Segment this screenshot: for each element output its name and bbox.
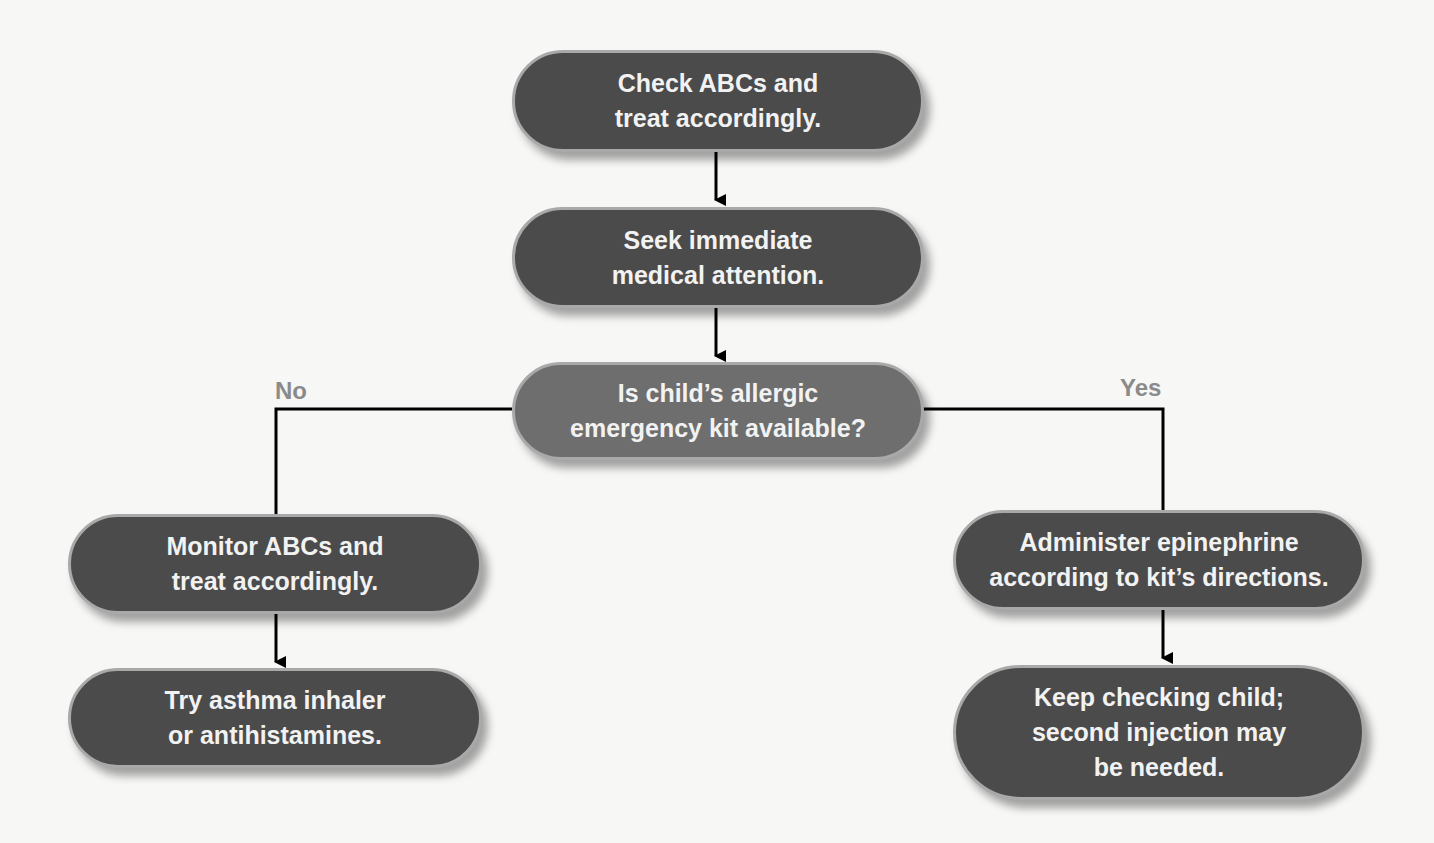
node-administer-epinephrine: Administer epinephrine according to kit’… (953, 510, 1365, 610)
node-seek-attention: Seek immediate medical attention. (512, 207, 924, 308)
node-administer-epinephrine-text: Administer epinephrine according to kit’… (989, 525, 1328, 595)
node-keep-checking-text: Keep checking child; second injection ma… (1032, 680, 1286, 785)
node-seek-attention-text: Seek immediate medical attention. (612, 223, 825, 293)
node-keep-checking: Keep checking child; second injection ma… (953, 665, 1365, 800)
branch-label-yes: Yes (1120, 374, 1161, 402)
flowchart: No Yes Check ABCs and treat accordingly.… (0, 0, 1434, 843)
node-check-abcs: Check ABCs and treat accordingly. (512, 50, 924, 152)
node-check-abcs-text: Check ABCs and treat accordingly. (615, 66, 822, 136)
node-decision-text: Is child’s allergic emergency kit availa… (570, 376, 866, 446)
node-decision-kit-available: Is child’s allergic emergency kit availa… (512, 362, 924, 460)
branch-label-no: No (275, 377, 307, 405)
node-monitor-abcs-text: Monitor ABCs and treat accordingly. (166, 529, 383, 599)
node-try-inhaler: Try asthma inhaler or antihistamines. (68, 668, 482, 768)
node-monitor-abcs: Monitor ABCs and treat accordingly. (68, 514, 482, 614)
node-try-inhaler-text: Try asthma inhaler or antihistamines. (165, 683, 386, 753)
